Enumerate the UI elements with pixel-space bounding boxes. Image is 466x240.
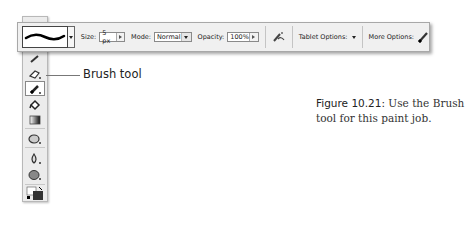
- brush-stroke-preview-icon: [23, 30, 67, 44]
- airbrush-icon: [272, 31, 286, 43]
- paint-bucket-icon: [28, 99, 42, 111]
- callout-leader-line: [46, 75, 80, 76]
- toolbox-divider: [25, 128, 45, 129]
- tablet-options-dropdown[interactable]: [352, 36, 356, 39]
- brush-preset-dropdown[interactable]: [68, 26, 75, 48]
- pencil-icon: [29, 54, 41, 64]
- brush-preset-picker[interactable]: [22, 26, 68, 48]
- eraser-icon: [28, 68, 42, 80]
- smudge-tool-button[interactable]: [25, 131, 45, 146]
- chevron-down-icon: [69, 36, 73, 39]
- opacity-stepper[interactable]: [249, 33, 258, 41]
- options-divider: [292, 26, 293, 48]
- toolbox-divider: [25, 147, 45, 148]
- opacity-label: Opacity:: [198, 33, 225, 41]
- mode-select[interactable]: Normal: [154, 32, 192, 42]
- mode-label: Mode:: [131, 33, 151, 41]
- gradient-icon: [29, 115, 41, 125]
- brush-icon: [417, 31, 429, 43]
- chevron-down-icon: [352, 36, 356, 39]
- tool-options-bar: Size: 5 px Mode: Normal Opacity: 100% Ta…: [17, 22, 430, 52]
- chevron-right-icon: [252, 35, 255, 39]
- callout-label: Brush tool: [83, 67, 142, 81]
- color-swatch-icon: [26, 186, 44, 200]
- sponge-icon: [28, 169, 42, 181]
- size-stepper[interactable]: [116, 33, 125, 41]
- more-options-label[interactable]: More Options:: [369, 33, 414, 41]
- eraser-tool-button[interactable]: [25, 66, 45, 81]
- chevron-down-icon: [184, 36, 188, 39]
- figure-caption: Figure 10.21: Use the Brush tool for thi…: [316, 96, 466, 126]
- mode-dropdown-arrow[interactable]: [181, 33, 191, 41]
- opacity-value: 100%: [230, 33, 249, 41]
- color-swatches[interactable]: [25, 186, 45, 200]
- paint-bucket-tool-button[interactable]: [25, 97, 45, 112]
- brush-tool-button[interactable]: [25, 81, 45, 96]
- dodge-tool-button[interactable]: [25, 167, 45, 182]
- size-value: 5 px: [102, 29, 115, 45]
- gradient-tool-button[interactable]: [25, 112, 45, 127]
- blur-tool-button[interactable]: [25, 151, 45, 166]
- more-options-button[interactable]: [417, 30, 429, 44]
- tablet-options-label[interactable]: Tablet Options:: [299, 33, 348, 41]
- drop-icon: [28, 153, 42, 165]
- figure-number: Figure 10.21:: [316, 97, 385, 109]
- brush-icon: [28, 83, 42, 95]
- pencil-tool-button[interactable]: [25, 51, 45, 66]
- opacity-input[interactable]: 100%: [227, 32, 259, 42]
- smudge-icon: [28, 133, 42, 145]
- options-divider: [265, 26, 266, 48]
- airbrush-button[interactable]: [272, 30, 286, 44]
- mode-value: Normal: [157, 33, 181, 41]
- size-input[interactable]: 5 px: [99, 32, 125, 42]
- size-label: Size:: [81, 33, 97, 41]
- chevron-right-icon: [119, 35, 122, 39]
- options-divider: [362, 26, 363, 48]
- toolbox-divider: [25, 184, 45, 185]
